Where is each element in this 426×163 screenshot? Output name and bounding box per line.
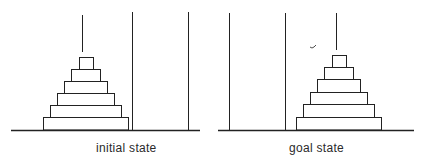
disk-1 (80, 58, 94, 70)
disk-4 (311, 93, 368, 105)
initial-disk-stack (44, 58, 129, 131)
disk-2 (72, 70, 101, 82)
hanoi-diagram (0, 0, 426, 163)
disk-5 (51, 106, 122, 118)
disk-5 (304, 105, 375, 118)
disk-3 (318, 80, 361, 93)
disk-6 (44, 118, 129, 131)
stray-mark (310, 45, 316, 48)
goal-state-label: goal state (289, 141, 344, 155)
disk-6 (297, 118, 382, 131)
initial-state-label: initial state (96, 141, 157, 155)
disk-2 (325, 68, 354, 80)
disk-1 (333, 56, 347, 68)
goal-state-panel (218, 13, 414, 131)
disk-3 (65, 82, 108, 94)
disk-4 (58, 94, 115, 106)
goal-disk-stack (297, 56, 382, 131)
initial-state-panel (11, 12, 200, 131)
